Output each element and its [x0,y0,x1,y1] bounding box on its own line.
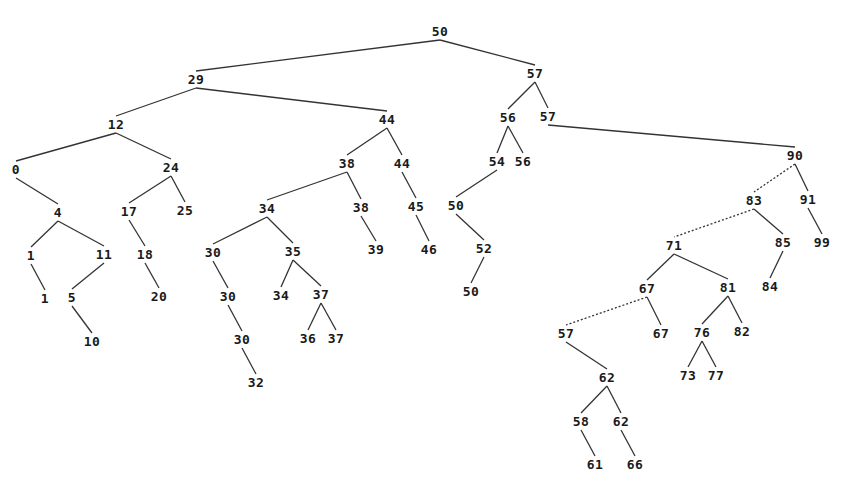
tree-node: 58 [573,415,590,428]
tree-node: 37 [313,288,330,301]
tree-edge [72,306,92,333]
tree-node: 4 [54,206,62,219]
tree-node: 17 [121,205,138,218]
tree-edge [361,216,376,241]
tree-edge [581,430,595,456]
tree-edge [213,217,267,244]
tree-edge [581,386,607,413]
tree-edge [770,251,783,278]
tree-edge [281,260,293,287]
tree-edge [754,209,783,234]
tree-edge [16,133,116,161]
tree-edge [728,296,742,323]
tree-edge [674,254,728,279]
tree-edge [72,263,104,289]
tree-node: 10 [84,335,101,348]
tree-node: 35 [285,245,302,258]
tree-edge [31,264,45,290]
tree-edge [321,303,336,330]
tree-edge [58,221,104,246]
tree-edge [347,172,361,199]
tree-node: 56 [500,111,517,124]
tree-edge [416,215,429,241]
tree-node: 84 [762,280,779,293]
tree-node: 57 [558,327,575,340]
tree-edge [566,342,607,369]
tree-edge [31,221,58,247]
tree-edge [548,125,795,147]
tree-node: 91 [800,193,817,206]
tree-node: 57 [540,110,557,123]
tree-node: 30 [220,290,237,303]
tree-node: 85 [775,236,792,249]
tree-edge [621,430,635,456]
tree-node: 39 [368,243,385,256]
tree-node: 62 [599,371,616,384]
tree-node: 61 [587,458,604,471]
tree-node: 67 [653,327,670,340]
tree-node: 83 [746,194,763,207]
tree-edge [702,341,716,367]
tree-node: 56 [515,155,532,168]
tree-node: 24 [163,161,180,174]
tree-node: 50 [448,199,465,212]
tree-edge [347,128,387,155]
tree-node: 52 [476,242,493,255]
tree-node: 29 [188,73,205,86]
tree-diagram: 5029571244565702438445456904172534384550… [0,0,849,486]
tree-node: 1 [27,249,35,262]
tree-node: 73 [680,369,697,382]
tree-node: 50 [463,285,480,298]
tree-edge [402,172,416,198]
tree-edge [647,254,674,280]
tree-edge [267,217,293,243]
tree-edge [116,133,171,159]
tree-edge [116,88,196,116]
tree-node: 46 [421,243,438,256]
tree-edge [566,297,647,325]
tree-node: 1 [41,292,49,305]
tree-edge [440,40,535,65]
tree-edge [213,261,228,288]
tree-node: 76 [694,326,711,339]
tree-edge [293,260,321,286]
tree-node: 82 [734,325,751,338]
tree-edge [456,170,497,197]
tree-node: 67 [639,282,656,295]
tree-node: 12 [108,118,125,131]
tree-edge [308,303,321,330]
tree-node: 99 [814,236,831,249]
tree-node: 20 [151,290,168,303]
tree-node: 37 [328,332,345,345]
tree-node: 5 [68,291,76,304]
tree-edge [607,386,621,413]
tree-node: 44 [379,113,396,126]
tree-node: 50 [432,25,449,38]
tree-node: 30 [234,333,251,346]
tree-edge [508,82,535,109]
tree-node: 11 [96,248,113,261]
tree-node: 38 [339,157,356,170]
tree-edge [471,257,484,283]
tree-edge [497,126,508,153]
tree-node: 66 [627,458,644,471]
tree-edge [196,88,387,111]
tree-edge [688,341,702,367]
tree-edge [145,263,159,288]
tree-node: 0 [12,163,20,176]
tree-node: 62 [613,415,630,428]
tree-edge [456,214,484,240]
tree-node: 32 [248,376,265,389]
tree-node: 18 [137,248,154,261]
tree-edge [754,164,795,192]
tree-edge [808,208,822,234]
tree-edge [795,164,808,191]
tree-node: 30 [205,246,222,259]
tree-node: 45 [408,200,425,213]
tree-edge [228,305,242,331]
tree-node: 90 [787,149,804,162]
tree-edge [171,176,185,202]
tree-node: 54 [489,155,506,168]
tree-edge [702,296,728,324]
tree-node: 34 [273,289,290,302]
